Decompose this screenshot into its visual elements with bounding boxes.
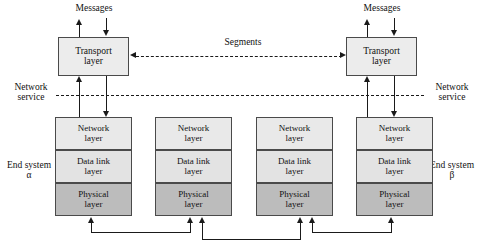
network-layer-line2: layer xyxy=(286,133,304,143)
end-system-left-line1: End system xyxy=(7,160,51,170)
network-service-left-line2: service xyxy=(18,92,45,102)
network-layer-box-stack-2: Network layer xyxy=(155,117,232,150)
data-link-layer-line2: layer xyxy=(386,166,404,176)
link-a-right-shaft xyxy=(190,222,191,233)
transport-layer-box-left: Transport layer xyxy=(58,37,129,76)
network-layer-line2: layer xyxy=(185,133,203,143)
transport-layer-line2: layer xyxy=(372,56,391,66)
link-a-horizontal xyxy=(91,232,191,233)
network-layer-line2: layer xyxy=(386,133,404,143)
service-down-shaft-right xyxy=(394,76,395,111)
network-service-label-left: Network service xyxy=(4,82,58,103)
data-link-layer-line2: layer xyxy=(286,166,304,176)
end-system-right-line2: β xyxy=(450,170,455,180)
end-system-right-line1: End system xyxy=(430,160,474,170)
physical-layer-box-stack-1: Physical layer xyxy=(55,183,132,216)
link-a-right-arrowhead xyxy=(187,217,193,223)
service-up-shaft-left xyxy=(79,81,80,117)
end-system-left-line2: α xyxy=(27,170,32,180)
network-layer-box-stack-3: Network layer xyxy=(256,117,333,150)
network-service-left-line1: Network xyxy=(14,82,47,92)
data-link-layer-box-stack-2: Data link layer xyxy=(155,150,232,183)
link-b-left-shaft xyxy=(202,222,203,240)
network-service-right-line1: Network xyxy=(435,82,468,92)
end-system-label-left: End system α xyxy=(0,160,58,181)
network-layer-box-stack-4: Network layer xyxy=(356,117,433,150)
physical-layer-box-stack-3: Physical layer xyxy=(256,183,333,216)
link-c-right-arrowhead xyxy=(388,217,394,223)
service-up-shaft-right xyxy=(367,81,368,117)
link-c-horizontal xyxy=(312,232,392,233)
physical-layer-line2: layer xyxy=(185,199,203,209)
link-b-right-shaft xyxy=(300,222,301,240)
transport-layer-line1: Transport xyxy=(75,46,112,56)
segments-label: Segments xyxy=(207,38,279,48)
physical-layer-line2: layer xyxy=(386,199,404,209)
data-link-layer-line2: layer xyxy=(85,166,103,176)
protocol-layering-diagram: Messages Transport layer Network service… xyxy=(0,0,482,248)
network-layer-line2: layer xyxy=(85,133,103,143)
messages-label-right: Messages xyxy=(350,4,414,14)
network-layer-box-stack-1: Network layer xyxy=(55,117,132,150)
physical-layer-box-stack-4: Physical layer xyxy=(356,183,433,216)
messages-up-shaft-left xyxy=(79,24,80,37)
segments-right-arrowhead xyxy=(340,52,346,58)
messages-down-arrowhead-right xyxy=(391,30,397,36)
network-service-boundary-line xyxy=(56,95,424,96)
link-b-horizontal xyxy=(202,239,301,240)
data-link-layer-box-stack-3: Data link layer xyxy=(256,150,333,183)
messages-up-shaft-right xyxy=(367,24,368,37)
messages-down-shaft-right xyxy=(394,18,395,30)
transport-layer-line1: Transport xyxy=(363,46,400,56)
data-link-layer-box-stack-1: Data link layer xyxy=(55,150,132,183)
link-c-right-shaft xyxy=(391,222,392,233)
segments-dashed-line xyxy=(136,56,342,57)
messages-down-shaft-left xyxy=(106,18,107,30)
link-b-right-arrowhead xyxy=(297,217,303,223)
segments-left-arrowhead xyxy=(130,52,136,58)
transport-layer-box-right: Transport layer xyxy=(346,37,417,76)
transport-layer-line2: layer xyxy=(84,56,103,66)
data-link-layer-box-stack-4: Data link layer xyxy=(356,150,433,183)
physical-layer-line2: layer xyxy=(85,199,103,209)
physical-layer-box-stack-2: Physical layer xyxy=(155,183,232,216)
data-link-layer-line2: layer xyxy=(185,166,203,176)
network-service-right-line2: service xyxy=(439,92,466,102)
network-service-label-right: Network service xyxy=(424,82,480,103)
physical-layer-line2: layer xyxy=(286,199,304,209)
messages-down-arrowhead-left xyxy=(103,30,109,36)
service-down-shaft-left xyxy=(106,76,107,111)
messages-label-left: Messages xyxy=(62,4,126,14)
